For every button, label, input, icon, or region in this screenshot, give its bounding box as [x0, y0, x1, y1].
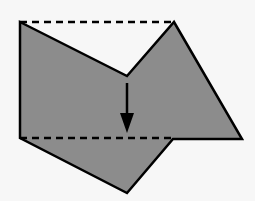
gray-polygon [20, 22, 242, 193]
diagram-canvas [0, 0, 255, 201]
